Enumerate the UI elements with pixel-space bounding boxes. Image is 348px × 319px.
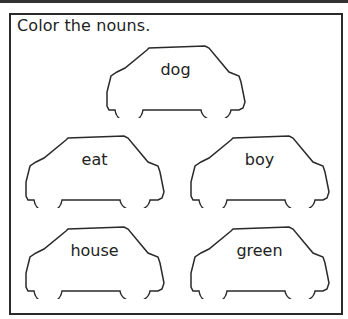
car-green[interactable]: green xyxy=(187,225,332,299)
car-word: green xyxy=(187,241,332,260)
top-rule xyxy=(0,0,348,3)
car-outline-icon xyxy=(103,44,248,118)
car-outline-icon xyxy=(187,134,332,208)
car-eat[interactable]: eat xyxy=(22,134,167,208)
car-outline-icon xyxy=(22,134,167,208)
car-house[interactable]: house xyxy=(22,225,167,299)
car-word: eat xyxy=(22,150,167,169)
car-outline-icon xyxy=(187,225,332,299)
car-dog[interactable]: dog xyxy=(103,44,248,118)
car-outline-icon xyxy=(22,225,167,299)
car-boy[interactable]: boy xyxy=(187,134,332,208)
car-word: dog xyxy=(103,60,248,79)
car-word: boy xyxy=(187,150,332,169)
car-word: house xyxy=(22,241,167,260)
instruction-text: Color the nouns. xyxy=(17,16,150,35)
